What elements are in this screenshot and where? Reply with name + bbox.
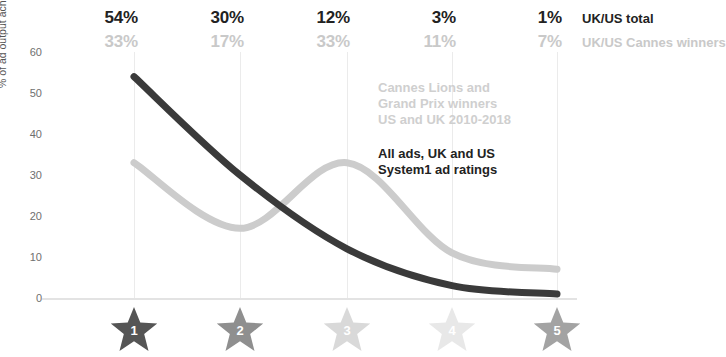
y-tick-50: 50	[2, 87, 42, 99]
y-tick-30: 30	[2, 169, 42, 181]
star-rating-2: 2	[215, 306, 265, 354]
star-rating-number: 1	[109, 306, 159, 350]
cannes-value-5: 7%	[456, 32, 562, 52]
y-tick-0: 0	[2, 292, 42, 304]
annotation-all-ads: All ads, UK and US System1 ad ratings	[378, 146, 497, 178]
star-rating-number: 5	[532, 306, 582, 350]
legend-row-total: 54% 30% 12% 3% 1% UK/US total	[32, 8, 654, 28]
cannes-value-2: 17%	[138, 32, 244, 52]
x-axis-baseline	[42, 298, 577, 300]
star-rating-3: 3	[322, 306, 372, 354]
y-tick-40: 40	[2, 128, 42, 140]
star-rating-1: 1	[109, 306, 159, 354]
total-value-1: 54%	[32, 8, 138, 28]
total-value-3: 12%	[244, 8, 350, 28]
y-tick-10: 10	[2, 251, 42, 263]
star-rating-number: 3	[322, 306, 372, 350]
star-rating-5: 5	[532, 306, 582, 354]
y-tick-60: 60	[2, 46, 42, 58]
cannes-value-3: 33%	[244, 32, 350, 52]
cannes-value-4: 11%	[350, 32, 456, 52]
x-axis-star-labels: 12345	[47, 306, 572, 354]
y-tick-20: 20	[2, 210, 42, 222]
star-rating-4: 4	[427, 306, 477, 354]
total-value-2: 30%	[138, 8, 244, 28]
legend-row-cannes: 33% 17% 33% 11% 7% UK/US Cannes winners	[32, 32, 726, 52]
legend-label-cannes: UK/US Cannes winners	[582, 35, 726, 50]
total-value-5: 1%	[456, 8, 562, 28]
line-cannes-winners	[134, 163, 557, 270]
legend-label-total: UK/US total	[582, 11, 654, 26]
annotation-cannes-winners: Cannes Lions and Grand Prix winners US a…	[378, 80, 511, 128]
star-rating-number: 2	[215, 306, 265, 350]
y-axis-tick-labels: 60 50 40 30 20 10 0	[0, 52, 42, 298]
total-value-4: 3%	[350, 8, 456, 28]
star-rating-number: 4	[427, 306, 477, 350]
cannes-value-1: 33%	[32, 32, 138, 52]
